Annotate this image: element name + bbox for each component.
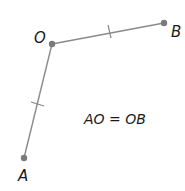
label-o: O [34, 29, 46, 47]
label-b: B [171, 23, 181, 41]
segment-ao [24, 44, 52, 158]
point-b [161, 20, 167, 26]
point-o [49, 41, 55, 47]
point-a [21, 155, 27, 161]
diagram-canvas: O B A AO = OB [0, 0, 185, 191]
tick-mark-ob [108, 25, 111, 38]
equation-text: AO = OB [83, 111, 146, 127]
label-a: A [17, 167, 28, 185]
